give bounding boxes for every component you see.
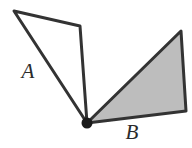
triangle-b-label: B [126, 120, 139, 144]
common-vertex-dot [82, 118, 93, 129]
triangle-a-label: A [20, 59, 35, 83]
geometry-figure: A B [0, 0, 192, 148]
